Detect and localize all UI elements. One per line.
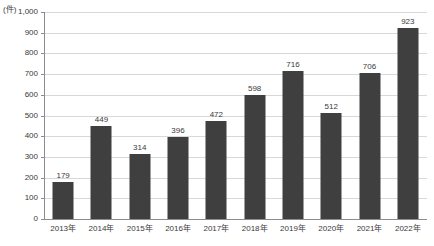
x-axis-tick-label: 2016年 — [165, 224, 191, 234]
y-axis-tick-label: 500 — [0, 112, 38, 120]
bar-value-label: 716 — [286, 60, 299, 69]
bar[interactable] — [91, 126, 112, 219]
x-axis-tick-label: 2021年 — [357, 224, 383, 234]
y-axis-tick-label: 400 — [0, 132, 38, 140]
y-axis-tick-label: 600 — [0, 91, 38, 99]
y-axis-tick-label: 0 — [0, 215, 38, 223]
bar[interactable] — [321, 113, 342, 219]
y-axis-tick-label: 200 — [0, 174, 38, 182]
x-axis-baseline — [44, 219, 427, 220]
bar-slot: 449 — [82, 12, 120, 219]
bar-slot: 512 — [312, 12, 350, 219]
bar-value-label: 396 — [171, 126, 184, 135]
x-axis-tick-label: 2020年 — [318, 224, 344, 234]
bar[interactable] — [53, 182, 74, 219]
x-axis-tick-label: 2013年 — [50, 224, 76, 234]
bar-slot: 923 — [389, 12, 427, 219]
x-axis-tick-label: 2018年 — [242, 224, 268, 234]
bar-slot: 396 — [159, 12, 197, 219]
y-axis-tick-label: 700 — [0, 70, 38, 78]
bar[interactable] — [244, 95, 265, 219]
y-axis-unit-label: (件) — [3, 5, 16, 15]
x-axis-tick-label: 2022年 — [395, 224, 421, 234]
y-axis-tick-label: 900 — [0, 29, 38, 37]
bar[interactable] — [397, 28, 418, 219]
x-axis-tick-label: 2014年 — [89, 224, 115, 234]
bar-value-label: 512 — [325, 102, 338, 111]
bar[interactable] — [168, 137, 189, 219]
bar[interactable] — [359, 73, 380, 219]
bar-value-label: 598 — [248, 84, 261, 93]
bars-layer: 179449314396472598716512706923 — [44, 12, 427, 219]
y-axis-tick-label: 100 — [0, 194, 38, 202]
bar[interactable] — [129, 154, 150, 219]
bar-slot: 179 — [44, 12, 82, 219]
x-axis-tick-label: 2017年 — [203, 224, 229, 234]
bar-slot: 706 — [350, 12, 388, 219]
bar-slot: 716 — [274, 12, 312, 219]
bar-slot: 472 — [197, 12, 235, 219]
bar-value-label: 706 — [363, 62, 376, 71]
x-axis-tick-label: 2015年 — [127, 224, 153, 234]
x-axis-tick-labels: 2013年2014年2015年2016年2017年2018年2019年2020年… — [44, 224, 427, 238]
bar-value-label: 314 — [133, 143, 146, 152]
bar[interactable] — [282, 71, 303, 219]
x-axis-tick-label: 2019年 — [280, 224, 306, 234]
bar-slot: 598 — [236, 12, 274, 219]
bar-value-label: 923 — [401, 17, 414, 26]
bar-slot: 314 — [121, 12, 159, 219]
bar-value-label: 472 — [210, 110, 223, 119]
y-axis-tick-label: 300 — [0, 153, 38, 161]
bar-value-label: 449 — [95, 115, 108, 124]
bar-chart: (件) 01002003004005006007008009001,000 17… — [0, 0, 434, 246]
y-axis-tick-label: 800 — [0, 49, 38, 57]
bar-value-label: 179 — [56, 171, 69, 180]
bar[interactable] — [206, 121, 227, 219]
